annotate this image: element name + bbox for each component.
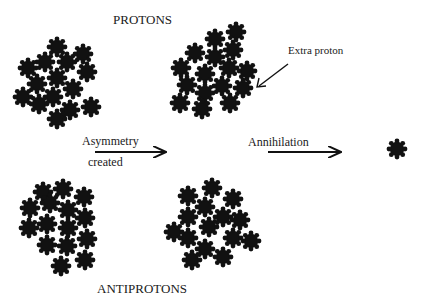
antiproton-icon xyxy=(230,210,251,231)
proton-icon xyxy=(387,139,408,160)
proton-icon xyxy=(237,61,258,82)
proton-cluster-initial xyxy=(13,37,102,130)
antiproton-icon xyxy=(58,218,79,239)
antiproton-icon xyxy=(213,207,234,228)
proton-icon xyxy=(47,109,68,130)
proton-icon xyxy=(63,79,84,100)
callout-arrow-icon xyxy=(259,64,288,86)
antiproton-icon xyxy=(51,256,72,277)
antiproton-icon xyxy=(57,236,78,257)
antiproton-icon xyxy=(178,186,199,207)
proton-icon xyxy=(223,40,244,61)
proton-icon xyxy=(57,52,78,73)
antiproton-icon xyxy=(178,228,199,249)
antiproton-icon xyxy=(77,229,98,250)
proton-cluster-with-extra xyxy=(170,22,258,120)
proton-icon xyxy=(195,64,216,85)
proton-icon xyxy=(170,93,191,114)
antiproton-cluster-initial xyxy=(19,179,98,277)
surviving-proton xyxy=(387,139,408,160)
antiproton-icon xyxy=(241,231,262,252)
antiproton-icon xyxy=(20,198,41,219)
proton-icon xyxy=(219,58,240,79)
created-label: created xyxy=(88,156,123,168)
antiproton-icon xyxy=(213,247,234,268)
antiproton-icon xyxy=(202,178,223,199)
proton-icon xyxy=(177,75,198,96)
antiproton-icon xyxy=(182,250,203,271)
proton-icon xyxy=(220,93,241,114)
matter-antimatter-asymmetry-diagram: PROTONS ANTIPROTONS Asymmetry created An… xyxy=(0,0,424,307)
antiproton-icon xyxy=(223,228,244,249)
proton-icon xyxy=(195,83,216,104)
antiproton-icon xyxy=(195,197,216,218)
proton-icon xyxy=(81,97,102,118)
antiproton-icon xyxy=(40,193,61,214)
proton-icon xyxy=(205,29,226,50)
antiproton-icon xyxy=(199,217,220,238)
proton-icon xyxy=(226,22,247,43)
antiproton-icon xyxy=(75,208,96,229)
antiproton-icon xyxy=(74,187,95,208)
antiproton-cluster-after xyxy=(164,178,262,271)
antiproton-icon xyxy=(37,235,58,256)
protons-heading: PROTONS xyxy=(113,13,172,26)
antiproton-icon xyxy=(19,218,40,239)
antiproton-icon xyxy=(223,189,244,210)
asymmetry-label: Asymmetry xyxy=(82,135,139,147)
antiproton-icon xyxy=(37,214,58,235)
diagram-graphics xyxy=(0,0,424,307)
annihilation-label: Annihilation xyxy=(248,136,309,148)
proton-icon xyxy=(77,62,98,83)
antiproton-icon xyxy=(75,250,96,271)
proton-icon xyxy=(29,94,50,115)
extra-proton-label: Extra proton xyxy=(288,45,343,56)
proton-icon xyxy=(192,99,213,120)
antiprotons-heading: ANTIPROTONS xyxy=(97,282,187,295)
proton-icon xyxy=(47,68,68,89)
